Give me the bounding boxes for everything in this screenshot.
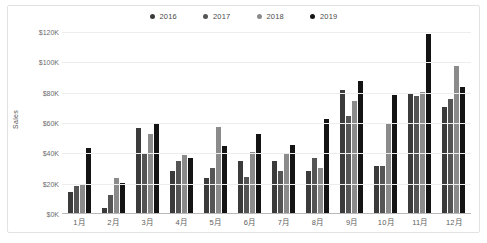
gridline	[62, 93, 471, 94]
plot-area: Sales $120K$100K$80K$60K$40K$20K$0K 1月2月…	[8, 32, 479, 232]
plot-grid	[62, 32, 471, 214]
legend-swatch-2016	[150, 14, 155, 19]
x-axis-line	[62, 213, 471, 214]
bar[interactable]	[312, 158, 317, 213]
bar[interactable]	[136, 128, 141, 213]
bar[interactable]	[278, 171, 283, 213]
bar[interactable]	[306, 171, 311, 213]
bar[interactable]	[222, 146, 227, 213]
gridline	[62, 184, 471, 185]
y-tick-label: $80K	[43, 89, 59, 96]
y-tick-label: $60K	[43, 120, 59, 127]
bar[interactable]	[74, 186, 79, 213]
bar[interactable]	[460, 87, 465, 213]
bar[interactable]	[108, 195, 113, 213]
bar[interactable]	[154, 124, 159, 213]
bar[interactable]	[454, 66, 459, 213]
x-tick-label: 11月	[403, 216, 437, 227]
legend-label-2018: 2018	[267, 13, 285, 21]
bar[interactable]	[352, 101, 357, 213]
bar[interactable]	[340, 90, 345, 213]
bar[interactable]	[448, 99, 453, 213]
bar[interactable]	[188, 158, 193, 213]
legend-label-2019: 2019	[320, 13, 338, 21]
gridline	[62, 153, 471, 154]
chart-card: 2016 2017 2018 2019 Sales $120K$100K$80K…	[7, 5, 480, 233]
legend-label-2017: 2017	[213, 13, 231, 21]
bar[interactable]	[256, 134, 261, 213]
gridline	[62, 62, 471, 63]
y-tick-label: $120K	[39, 29, 59, 36]
x-tick-label: 1月	[62, 216, 96, 227]
bar[interactable]	[414, 96, 419, 213]
y-tick-label: $100K	[39, 59, 59, 66]
x-tick-label: 3月	[130, 216, 164, 227]
bar[interactable]	[374, 166, 379, 213]
x-tick-label: 5月	[198, 216, 232, 227]
bar[interactable]	[244, 177, 249, 213]
bar[interactable]	[148, 134, 153, 213]
legend-item-2018[interactable]: 2018	[257, 13, 285, 21]
chart-legend: 2016 2017 2018 2019	[8, 13, 479, 21]
legend-swatch-2017	[203, 14, 208, 19]
x-tick-label: 2月	[96, 216, 130, 227]
bar[interactable]	[358, 81, 363, 213]
x-tick-label: 4月	[164, 216, 198, 227]
legend-label-2016: 2016	[160, 13, 178, 21]
x-tick-label: 8月	[301, 216, 335, 227]
x-tick-label: 7月	[266, 216, 300, 227]
bar[interactable]	[420, 92, 425, 213]
bar[interactable]	[86, 148, 91, 213]
gridline	[62, 123, 471, 124]
y-tick-label: $20K	[43, 180, 59, 187]
bar[interactable]	[238, 161, 243, 213]
bar[interactable]	[324, 119, 329, 213]
bar[interactable]	[380, 166, 385, 213]
bar[interactable]	[80, 184, 85, 213]
legend-item-2017[interactable]: 2017	[203, 13, 231, 21]
bar[interactable]	[290, 145, 295, 213]
bar[interactable]	[210, 168, 215, 214]
bar[interactable]	[120, 183, 125, 213]
legend-swatch-2019	[310, 14, 315, 19]
legend-item-2016[interactable]: 2016	[150, 13, 178, 21]
bar[interactable]	[170, 171, 175, 213]
y-axis-ticks: $120K$100K$80K$60K$40K$20K$0K	[22, 32, 62, 214]
x-axis-ticks: 1月2月3月4月5月6月7月8月9月10月11月12月	[62, 216, 471, 227]
bar[interactable]	[386, 124, 391, 213]
bar[interactable]	[318, 168, 323, 214]
legend-swatch-2018	[257, 14, 262, 19]
y-tick-label: $40K	[43, 150, 59, 157]
bar[interactable]	[272, 161, 277, 213]
x-tick-label: 6月	[232, 216, 266, 227]
bar[interactable]	[68, 192, 73, 213]
gridline	[62, 32, 471, 33]
y-tick-label: $0K	[47, 211, 59, 218]
bar[interactable]	[346, 116, 351, 213]
x-tick-label: 12月	[437, 216, 471, 227]
x-tick-label: 10月	[369, 216, 403, 227]
legend-item-2019[interactable]: 2019	[310, 13, 338, 21]
bar[interactable]	[216, 127, 221, 213]
x-tick-label: 9月	[335, 216, 369, 227]
bar[interactable]	[176, 161, 181, 213]
